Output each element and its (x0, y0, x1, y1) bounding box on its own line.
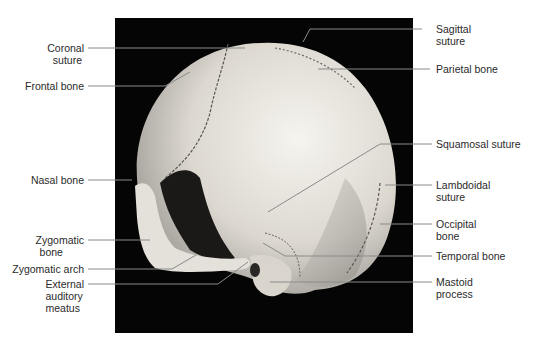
label-parietal-bone: Parietal bone (436, 63, 498, 75)
label-zygomatic-arch: Zygomatic arch (12, 263, 84, 275)
label-line: Mastoid (436, 276, 473, 288)
label-line: Nasal bone (31, 174, 84, 186)
label-external-auditory-meatus: External auditory meatus (45, 278, 84, 314)
label-line: Coronal (47, 42, 84, 54)
label-line: suture (436, 191, 490, 203)
label-coronal-suture: Coronal suture (47, 42, 84, 66)
label-line: suture (436, 35, 471, 47)
label-line: Zygomatic (36, 234, 84, 246)
label-line: Frontal bone (25, 80, 84, 92)
label-lambdoidal-suture: Lambdoidal suture (436, 179, 490, 203)
label-line: Lambdoidal (436, 179, 490, 191)
label-line: External (45, 278, 84, 290)
label-line: suture (47, 54, 84, 66)
label-line: Temporal bone (436, 250, 505, 262)
label-line: auditory (45, 290, 84, 302)
label-line: Occipital (436, 218, 476, 230)
label-temporal-bone: Temporal bone (436, 250, 505, 262)
label-line: process (436, 288, 473, 300)
label-squamosal-suture: Squamosal suture (436, 138, 521, 150)
label-sagittal-suture: Sagittal suture (436, 23, 471, 47)
label-nasal-bone: Nasal bone (31, 174, 84, 186)
auditory-meatus (250, 263, 260, 277)
skull-illustration (115, 18, 413, 333)
label-line: Squamosal suture (436, 138, 521, 150)
label-zygomatic-bone: Zygomatic bone (36, 234, 84, 258)
label-mastoid-process: Mastoid process (436, 276, 473, 300)
label-frontal-bone: Frontal bone (25, 80, 84, 92)
skull-photograph (115, 18, 413, 333)
label-line: Parietal bone (436, 63, 498, 75)
label-line: bone (36, 246, 84, 258)
label-occipital-bone: Occipital bone (436, 218, 476, 242)
label-line: meatus (45, 302, 84, 314)
label-line: Sagittal (436, 23, 471, 35)
label-line: Zygomatic arch (12, 263, 84, 275)
label-line: bone (436, 230, 476, 242)
